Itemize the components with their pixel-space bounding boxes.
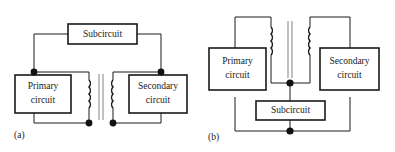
panel-a-secondary-circuit-label-line2: circuit [146,95,171,105]
panel-b-secondary-coil [309,27,310,55]
panel-b-primary-circuit-label-line1: Primary [222,56,253,66]
figure-canvas: Primary circuit Secondary circuit Subcir… [0,0,395,152]
panel-a-secondary-coil [112,80,113,108]
panel-a-secondary-circuit-label-line1: Secondary [138,81,178,91]
panel-b-secondary-circuit-box [320,48,379,90]
panel-a-primary-circuit-block[interactable]: Primary circuit [15,75,71,113]
panel-b-left-coil-bottom-wire [271,55,290,83]
panel-a-subcircuit-label: Subcircuit [83,29,122,39]
panel-b-primary-coil [271,27,272,55]
panel-b-primary-circuit-box [209,48,266,90]
panel-a-secondary-circuit-block[interactable]: Secondary circuit [129,75,187,113]
panel-b-secondary-circuit-label-line1: Secondary [329,56,369,66]
panel-b-primary-circuit-label-line2: circuit [225,70,250,80]
panel-b-junction-bottom-rail [286,127,293,134]
panel-b: Primary circuit Secondary circuit Subcir… [208,17,379,143]
panel-b-right-coil-bottom-wire [290,55,310,83]
panel-a-caption: (a) [14,130,25,141]
panel-a-top-right-wire [137,34,161,72]
panel-b-secondary-circuit-label-line2: circuit [337,70,362,80]
panel-a-primary-circuit-label-line2: circuit [31,95,56,105]
panel-a-top-left-wire [34,34,68,72]
panel-a-primary-circuit-label-line1: Primary [28,81,59,91]
panel-a-junction-top-right [158,69,165,76]
circuit-diagram-svg: Primary circuit Secondary circuit Subcir… [0,0,395,152]
panel-a-primary-coil [89,80,90,108]
panel-a: Primary circuit Secondary circuit Subcir… [14,24,187,141]
panel-b-subcircuit-label: Subcircuit [271,105,310,115]
panel-a-junction-top-left [31,69,38,76]
panel-a-subcircuit-block[interactable]: Subcircuit [68,24,137,44]
panel-a-junction-bottom-left [86,120,93,127]
panel-b-primary-circuit-block[interactable]: Primary circuit [209,48,266,90]
panel-a-junction-bottom-right [110,120,117,127]
panel-b-caption: (b) [208,132,219,143]
panel-b-junction-transformer-common [286,79,293,86]
panel-b-subcircuit-block[interactable]: Subcircuit [256,101,325,120]
panel-b-secondary-circuit-block[interactable]: Secondary circuit [320,48,379,90]
